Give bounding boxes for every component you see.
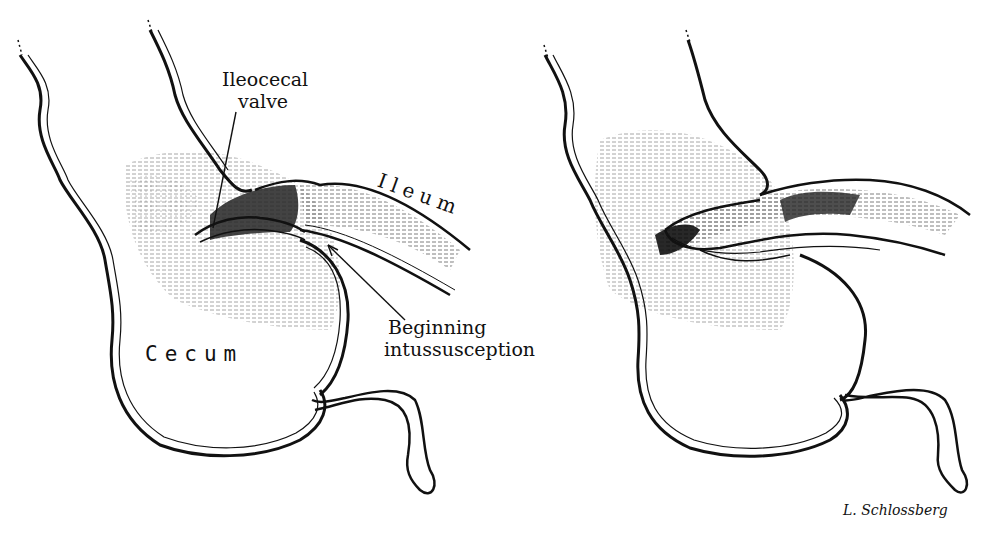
label-beginning-line1: Beginning (384, 316, 535, 338)
label-ileocecal-valve-line2: valve (222, 90, 308, 112)
right-panel-cecum (544, 30, 970, 492)
label-beginning-intussusception: Beginning intussusception (384, 316, 535, 360)
artist-signature: L. Schlossberg (843, 503, 948, 517)
label-ileocecal-valve-line1: Ileocecal (222, 68, 308, 90)
anatomical-illustration (0, 0, 998, 556)
label-ileocecal-valve: Ileocecal valve (222, 68, 308, 112)
label-beginning-line2: intussusception (384, 338, 535, 360)
label-cecum: Cecum (145, 344, 243, 365)
